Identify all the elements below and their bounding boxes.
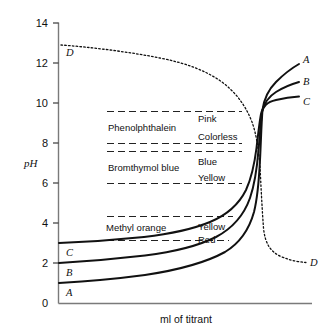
curve-label-c-right: C — [303, 96, 311, 107]
y-tick-label-14: 14 — [36, 17, 48, 29]
curve-label-b-right: B — [303, 76, 310, 87]
curve-label-b-left: B — [66, 267, 73, 278]
curve-label-d-right: D — [309, 257, 318, 268]
indicator-color-phenolphthalein-low: Colorless — [198, 131, 238, 142]
titration-curve-chart: 14 12 10 8 6 4 2 0 pH ml of titrant Phen… — [0, 0, 323, 333]
y-axis-title: pH — [23, 157, 39, 169]
y-tick-label-10: 10 — [36, 97, 48, 109]
indicator-color-bromthymol-high: Blue — [198, 156, 217, 167]
curve-label-d-left: D — [65, 47, 74, 58]
y-tick-label-2: 2 — [42, 257, 48, 269]
indicator-color-phenolphthalein-high: Pink — [198, 113, 217, 124]
indicator-label-phenolphthalein: Phenolphthalein — [108, 122, 176, 133]
y-tick-label-4: 4 — [42, 217, 48, 229]
indicator-label-methyl-orange: Methyl orange — [106, 222, 166, 233]
curve-label-a-left: A — [65, 287, 73, 298]
chart-canvas: 14 12 10 8 6 4 2 0 pH ml of titrant Phen… — [0, 0, 323, 333]
indicator-color-bromthymol-low: Yellow — [198, 172, 225, 183]
indicator-color-methyl-orange-high: Yellow — [198, 221, 225, 232]
x-axis-title: ml of titrant — [160, 313, 212, 325]
indicator-label-bromthymol-blue: Bromthymol blue — [108, 162, 179, 173]
curve-label-c-left: C — [66, 247, 74, 258]
y-tick-label-12: 12 — [36, 57, 48, 69]
y-tick-label-0: 0 — [42, 297, 48, 309]
y-tick-label-6: 6 — [42, 177, 48, 189]
y-tick-label-8: 8 — [42, 137, 48, 149]
y-axis-ticks — [53, 23, 59, 263]
curve-label-a-right: A — [302, 54, 310, 65]
